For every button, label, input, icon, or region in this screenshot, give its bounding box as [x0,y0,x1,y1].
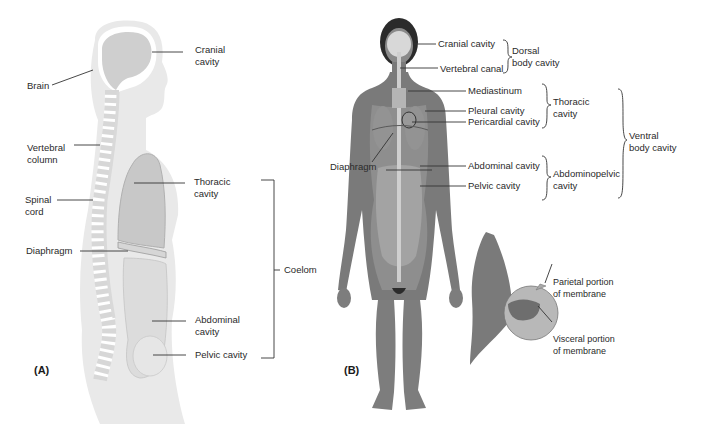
label-b-pleural-cavity: Pleural cavity [468,105,525,117]
frontal-body-figure [337,18,463,410]
label-line: Thoracic [194,176,230,188]
label-line: Abdominopelvic [553,168,620,180]
label-b-pericardial-cavity: Pericardial cavity [468,116,540,128]
label-b-abdominopelvic-cavity: Abdominopelvic cavity [553,168,620,191]
sagittal-body-figure [80,21,185,424]
label-line: body cavity [629,142,677,154]
label-b-visceral-membrane: Visceral portion of membrane [553,334,615,357]
label-line: Cranial [195,44,225,56]
body-cavities-diagram: Cranial cavity Brain Vertebral column Sp… [0,0,702,424]
label-a-spinal-cord: Spinal cord [25,194,51,217]
label-b-diaphragm: Diaphragm [330,161,376,173]
label-b-mediastinum: Mediastinum [468,85,522,97]
label-line: cavity [553,108,589,120]
membrane-balloon-illustration [470,232,558,365]
label-b-parietal-membrane: Parietal portion of membrane [553,277,614,300]
label-line: Vertebral [27,142,65,154]
label-b-dorsal-body-cavity: Dorsal body cavity [512,45,560,68]
label-line: body cavity [512,57,560,69]
label-line: Parietal portion [553,277,614,289]
label-a-abdominal-cavity: Abdominal cavity [195,314,240,337]
panel-label-a: (A) [34,364,49,376]
label-a-cranial-cavity: Cranial cavity [195,44,225,67]
label-line: Spinal [25,194,51,206]
label-line: of membrane [553,289,614,301]
label-line: Visceral portion [553,334,615,346]
label-b-thoracic-cavity: Thoracic cavity [553,96,589,119]
label-line: cavity [194,188,230,200]
label-line: of membrane [553,346,615,358]
label-line: Ventral [629,130,677,142]
label-a-thoracic-cavity: Thoracic cavity [194,176,230,199]
label-b-abdominal-cavity: Abdominal cavity [468,160,540,172]
label-line: Thoracic [553,96,589,108]
label-line: cavity [553,180,620,192]
diagram-artwork [0,0,702,424]
panel-label-b: (B) [344,364,359,376]
label-line: column [27,154,65,166]
label-line: cord [25,206,51,218]
label-a-vertebral-column: Vertebral column [27,142,65,165]
label-line: Dorsal [512,45,560,57]
label-a-brain: Brain [27,80,49,92]
label-line: cavity [195,326,240,338]
label-a-diaphragm: Diaphragm [26,245,72,257]
label-b-ventral-body-cavity: Ventral body cavity [629,130,677,153]
label-line: cavity [195,56,225,68]
label-b-vertebral-canal: Vertebral canal [440,63,503,75]
label-line: Abdominal [195,314,240,326]
label-b-cranial-cavity: Cranial cavity [438,38,495,50]
label-b-pelvic-cavity: Pelvic cavity [468,180,520,192]
label-a-coelom: Coelom [284,264,317,276]
label-a-pelvic-cavity: Pelvic cavity [195,349,247,361]
